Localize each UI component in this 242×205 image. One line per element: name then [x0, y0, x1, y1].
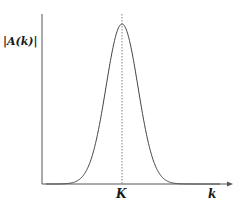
peak-tick-label: K — [116, 187, 126, 201]
gaussian-figure — [0, 0, 242, 205]
x-axis-arrow-icon — [227, 182, 233, 187]
y-axis-label: |A(k)| — [3, 35, 38, 48]
gaussian-curve — [46, 24, 220, 184]
x-axis-label: k — [208, 187, 216, 201]
